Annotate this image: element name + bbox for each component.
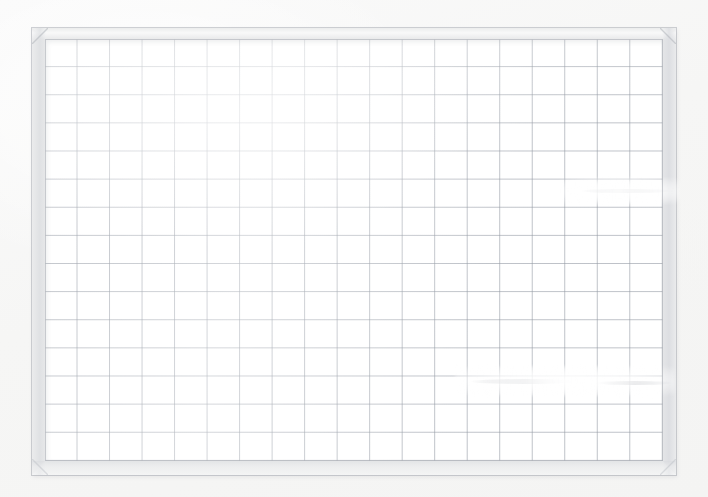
grid-overlay [45, 39, 663, 461]
whiteboard-scene [0, 0, 708, 497]
writing-surface[interactable] [45, 39, 663, 461]
